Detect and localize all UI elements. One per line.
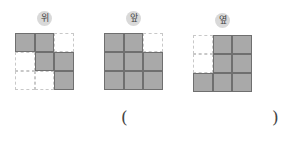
top-view-cell-1-2: [54, 52, 74, 71]
side-view-cell-2-2: [232, 73, 252, 92]
top-view-cell-2-1: [35, 71, 55, 90]
front-view-cell-2-2: [143, 71, 163, 90]
top-view-grid: [15, 33, 74, 90]
top-view-cell-2-0: [15, 71, 35, 90]
side-view-cell-1-1: [213, 54, 233, 73]
side-view-cell-0-2: [232, 35, 252, 54]
side-view-cell-1-0: [193, 54, 213, 73]
side-view-cell-2-1: [213, 73, 233, 92]
answer-open-paren: (: [121, 107, 128, 127]
side-view-label: 옆: [215, 13, 230, 28]
answer-blank: [135, 110, 265, 126]
top-view-cell-1-1: [35, 52, 55, 71]
side-view-cell-0-1: [213, 35, 233, 54]
side-view-cell-1-2: [232, 54, 252, 73]
front-view-cell-0-1: [124, 33, 144, 52]
side-view-cell-0-0: [193, 35, 213, 54]
front-view-cell-2-1: [124, 71, 144, 90]
front-view-grid: [104, 33, 163, 90]
top-view-cell-0-2: [54, 33, 74, 52]
front-view-cell-0-0: [104, 33, 124, 52]
front-view-cell-0-2: [143, 33, 163, 52]
front-view-cell-1-1: [124, 52, 144, 71]
top-view-cell-2-2: [54, 71, 74, 90]
top-view-cell-1-0: [15, 52, 35, 71]
answer-close-paren: ): [272, 107, 279, 127]
side-view-grid: [193, 35, 252, 92]
top-view-cell-0-0: [15, 33, 35, 52]
top-view-label: 위: [37, 11, 52, 26]
front-view-label: 앞: [126, 11, 141, 26]
front-view-cell-1-2: [143, 52, 163, 71]
front-view-cell-1-0: [104, 52, 124, 71]
front-view-cell-2-0: [104, 71, 124, 90]
top-view-cell-0-1: [35, 33, 55, 52]
side-view-cell-2-0: [193, 73, 213, 92]
